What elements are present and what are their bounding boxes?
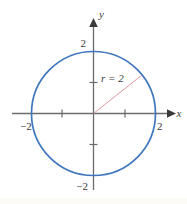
y-axis-label: y	[98, 8, 104, 20]
x-axis-label: x	[176, 107, 182, 119]
circle-plot-figure: y x 2 −2 −2 2 r = 2	[0, 0, 187, 204]
x-tick-label-negative-two: −2	[20, 120, 32, 132]
y-tick-label-positive-two: 2	[81, 37, 87, 49]
x-tick-label-positive-two: 2	[157, 120, 163, 132]
x-axis-arrowhead	[167, 109, 176, 118]
plot-canvas: y x 2 −2 −2 2 r = 2	[0, 0, 187, 204]
y-tick-label-negative-two: −2	[76, 180, 88, 192]
bottom-edge-band	[0, 198, 187, 204]
y-axis-arrowhead	[89, 18, 98, 27]
radius-annotation-label: r = 2	[101, 72, 124, 84]
